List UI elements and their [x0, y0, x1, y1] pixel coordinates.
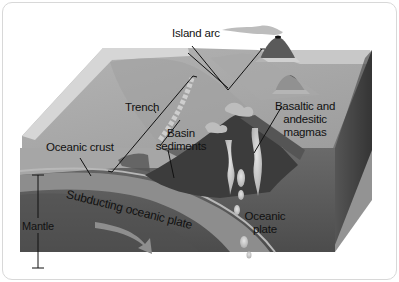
label-oceanic-plate: Oceanic plate — [240, 210, 290, 236]
label-oceanic-plate-line1: Oceanic — [240, 210, 290, 223]
label-oceanic-crust: Oceanic crust — [46, 141, 114, 154]
label-basin-sediments-line1: Basin — [146, 127, 216, 140]
label-basin-sediments: Basin sediments — [146, 127, 216, 153]
label-island-arc: Island arc — [172, 27, 220, 40]
label-trench: Trench — [125, 101, 159, 114]
label-oceanic-plate-line2: plate — [240, 223, 290, 236]
label-basaltic-line3: magmas — [265, 126, 345, 139]
label-basaltic-andesitic-magmas: Basaltic and andesitic magmas — [265, 100, 345, 139]
label-basin-sediments-line2: sediments — [146, 140, 216, 153]
label-mantle: Mantle — [22, 220, 54, 233]
label-basaltic-line2: andesitic — [265, 113, 345, 126]
label-basaltic-line1: Basaltic and — [265, 100, 345, 113]
